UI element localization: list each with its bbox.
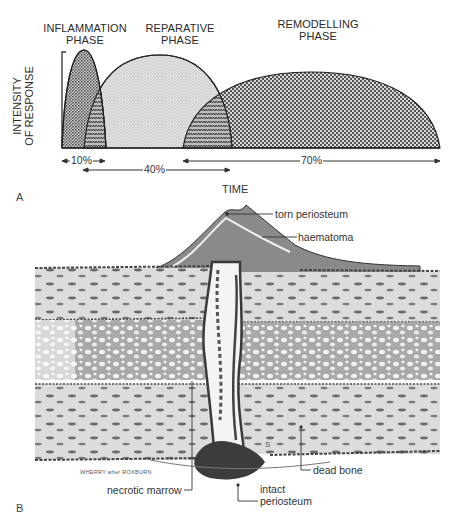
fracture-illustration: [35, 205, 440, 501]
panel-letter-b: B: [16, 502, 23, 514]
reparative-label-line2: PHASE: [135, 34, 225, 46]
callout-haematoma: haematoma: [298, 231, 353, 243]
inflammation-phase-label: INFLAMMATION PHASE: [40, 22, 130, 46]
callout-intact-periosteum: intact periosteum: [260, 483, 312, 507]
intact-periosteum-line1: intact: [260, 483, 312, 495]
duration-arrows: [62, 159, 440, 172]
inflammation-label-line1: INFLAMMATION: [40, 22, 130, 34]
intact-periosteum-line2: periosteum: [260, 495, 312, 507]
duration-label-remodelling: 70%: [300, 155, 323, 166]
panel-letter-a: A: [16, 191, 23, 203]
y-axis-label-line2: OF RESPONSE: [23, 56, 35, 156]
duration-label-reparative: 40%: [143, 164, 166, 175]
artist-signature: WHERRY after ROXBURN: [80, 469, 152, 475]
marrow-right: [240, 322, 440, 380]
x-axis-label: TIME: [222, 183, 248, 195]
reparative-label-line1: REPARATIVE: [135, 22, 225, 34]
marker-s: S: [265, 440, 270, 449]
remodelling-label-line2: PHASE: [268, 30, 368, 42]
callout-necrotic-marrow: necrotic marrow: [107, 484, 182, 496]
figure-canvas: [0, 0, 456, 523]
inflammation-label-line2: PHASE: [40, 34, 130, 46]
y-axis-label: INTENSITY OF RESPONSE: [11, 56, 35, 156]
duration-label-inflammation: 10%: [70, 155, 93, 166]
y-axis-label-line1: INTENSITY: [11, 56, 23, 156]
phase-chart: [62, 50, 440, 172]
remodelling-label-line1: REMODELLING: [268, 18, 368, 30]
remodelling-phase-label: REMODELLING PHASE: [268, 18, 368, 42]
callout-torn-periosteum: torn periosteum: [275, 208, 348, 220]
callout-dead-bone: dead bone: [313, 464, 363, 476]
upper-cortex-right: [240, 272, 440, 322]
upper-cortex-left: [35, 268, 220, 320]
reparative-phase-label: REPARATIVE PHASE: [135, 22, 225, 46]
